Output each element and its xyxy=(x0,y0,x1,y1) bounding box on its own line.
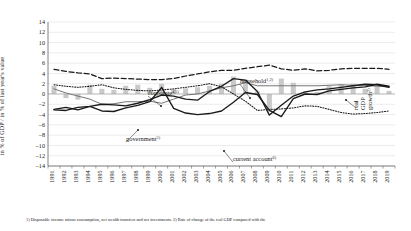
y-axis-label: in % of GDP / in % of last year's value xyxy=(0,0,5,36)
svg-text:1997: 1997 xyxy=(121,171,127,183)
svg-text:2004: 2004 xyxy=(205,170,211,182)
series-household xyxy=(54,65,389,79)
svg-text:real: real xyxy=(352,100,359,110)
svg-text:–6: –6 xyxy=(38,121,45,128)
svg-text:2016: 2016 xyxy=(348,170,354,182)
svg-text:government5): government5) xyxy=(126,135,161,142)
svg-text:2008: 2008 xyxy=(252,171,258,183)
svg-text:2: 2 xyxy=(42,80,45,87)
annotation-real-gdp-growth: realGDPgrowth2) xyxy=(345,88,373,110)
svg-text:14: 14 xyxy=(39,18,45,25)
svg-text:2002: 2002 xyxy=(181,170,187,182)
footnotes: 1) Disposable income minus consumption, … xyxy=(26,217,402,223)
svg-text:–8: –8 xyxy=(38,131,45,138)
svg-text:–10: –10 xyxy=(35,142,45,149)
svg-text:12: 12 xyxy=(39,28,45,35)
svg-text:–2: –2 xyxy=(38,100,45,107)
svg-text:–12: –12 xyxy=(35,152,45,159)
svg-text:1993: 1993 xyxy=(73,170,79,182)
svg-text:current account6): current account6) xyxy=(233,155,277,162)
svg-text:6: 6 xyxy=(42,59,45,66)
plot-area: 14121086420–2–4–6–8–10–12–14 19911992199… xyxy=(28,18,399,188)
svg-text:2012: 2012 xyxy=(300,171,306,183)
svg-text:2017: 2017 xyxy=(360,171,366,183)
svg-text:1991: 1991 xyxy=(49,170,55,182)
footnote-text: 1) Disposable income minus consumption, … xyxy=(26,217,266,222)
y-tick-labels: 14121086420–2–4–6–8–10–12–14 xyxy=(35,18,45,169)
annotation-current-account: current account6) xyxy=(223,150,277,162)
svg-text:GDP: GDP xyxy=(359,97,366,110)
svg-text:2019: 2019 xyxy=(384,171,390,183)
svg-text:household1,2): household1,2) xyxy=(240,77,274,84)
y-axis-label-text: in % of GDP / in % of last year's value xyxy=(0,36,5,176)
chart-figure: in % of GDP / in % of last year's value … xyxy=(0,0,411,231)
svg-text:2013: 2013 xyxy=(312,170,318,182)
svg-text:2011: 2011 xyxy=(288,170,294,182)
svg-text:0: 0 xyxy=(42,90,45,97)
svg-text:growth2): growth2) xyxy=(366,88,373,110)
svg-text:2009: 2009 xyxy=(264,170,270,182)
svg-text:2018: 2018 xyxy=(372,170,378,182)
svg-text:1998: 1998 xyxy=(133,170,139,182)
annotation-government: government5) xyxy=(126,129,161,142)
svg-text:1992: 1992 xyxy=(61,171,67,183)
svg-text:10: 10 xyxy=(39,39,45,46)
svg-text:2010: 2010 xyxy=(276,171,282,183)
svg-text:1995: 1995 xyxy=(97,170,103,182)
svg-text:2006: 2006 xyxy=(228,171,234,183)
chart-svg: 14121086420–2–4–6–8–10–12–14 19911992199… xyxy=(28,18,399,188)
svg-text:2014: 2014 xyxy=(324,171,330,183)
axes xyxy=(48,22,395,169)
svg-text:2000: 2000 xyxy=(157,170,163,182)
svg-text:2003: 2003 xyxy=(193,171,199,183)
svg-text:4: 4 xyxy=(42,70,45,77)
svg-text:2005: 2005 xyxy=(217,171,223,183)
svg-text:–14: –14 xyxy=(35,162,45,169)
svg-text:1999: 1999 xyxy=(145,171,151,183)
svg-text:2001: 2001 xyxy=(169,171,175,183)
svg-text:2007: 2007 xyxy=(240,170,246,182)
svg-text:corporate4,5): corporate4,5) xyxy=(148,89,179,96)
x-tick-labels: 1991199219931994199519961997199819992000… xyxy=(49,170,390,182)
svg-text:1994: 1994 xyxy=(85,171,91,183)
svg-text:–4: –4 xyxy=(38,111,45,118)
svg-text:1996: 1996 xyxy=(109,170,115,182)
svg-text:8: 8 xyxy=(42,49,45,56)
svg-text:2015: 2015 xyxy=(336,171,342,183)
